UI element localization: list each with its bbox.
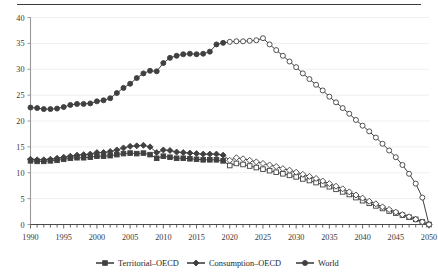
data-point-2026: [267, 42, 272, 47]
data-point-1998: [81, 101, 86, 106]
data-point-2006: [134, 143, 140, 149]
y-tick-label-30: 30: [16, 65, 24, 74]
data-point-2041: [367, 129, 372, 134]
data-point-2021: [234, 161, 239, 166]
data-point-2007: [140, 142, 146, 148]
data-point-2024: [254, 165, 259, 170]
legend-marker-diamond: [193, 260, 199, 266]
data-point-2011: [168, 155, 173, 160]
data-point-2014: [187, 51, 192, 56]
data-point-2037: [340, 106, 345, 111]
x-tick-label-2045: 2045: [388, 233, 404, 242]
data-point-2045: [393, 155, 398, 160]
data-point-2016: [201, 51, 206, 56]
data-point-2029: [287, 167, 293, 173]
data-point-2013: [181, 156, 186, 161]
data-point-2016: [201, 158, 206, 163]
data-point-1995: [61, 105, 66, 110]
chart-legend: Territorial–OECDConsumption–OECDWorld: [0, 252, 438, 276]
data-point-1990: [28, 105, 33, 110]
data-point-2004: [120, 145, 126, 151]
series-consumption-oecd: [28, 142, 433, 227]
gridlines-group: [31, 18, 430, 225]
data-point-2023: [247, 164, 252, 169]
legend-marker-square: [103, 261, 108, 266]
data-point-2013: [181, 52, 186, 57]
legend-item-world[interactable]: World: [296, 259, 340, 268]
data-point-2039: [353, 117, 358, 122]
data-point-2027: [274, 170, 279, 175]
data-point-2038: [347, 111, 352, 116]
data-point-2027: [273, 164, 279, 170]
data-point-2013: [180, 150, 186, 156]
data-point-2036: [334, 100, 339, 105]
x-tick-label-2020: 2020: [222, 233, 238, 242]
data-point-2006: [134, 76, 139, 81]
data-point-2007: [141, 71, 146, 76]
legend-marker-circle: [303, 261, 308, 266]
data-point-1996: [68, 102, 73, 107]
data-point-2012: [174, 149, 180, 155]
legend-label: World: [318, 259, 340, 268]
plot-area: 0510152025303540 19901995200020052010201…: [0, 12, 438, 244]
data-point-2023: [247, 38, 252, 43]
data-point-2030: [294, 65, 299, 70]
legend-items-group: Territorial–OECDConsumption–OECDWorld: [96, 259, 340, 268]
data-point-2017: [207, 151, 213, 157]
data-point-2026: [267, 162, 273, 168]
legend-item-territorial-oecd[interactable]: Territorial–OECD: [96, 259, 179, 268]
x-tick-label-2000: 2000: [89, 233, 105, 242]
data-point-2048: [413, 181, 418, 186]
y-tick-labels-group: 0510152025303540: [16, 14, 24, 230]
data-point-2015: [194, 157, 199, 162]
data-point-2005: [128, 81, 133, 86]
data-point-2040: [360, 123, 365, 128]
data-point-2004: [121, 85, 126, 90]
data-point-2021: [233, 155, 239, 161]
legend-label: Consumption–OECD: [209, 259, 281, 268]
data-point-2012: [174, 156, 179, 161]
data-point-2018: [214, 158, 219, 163]
data-point-2024: [253, 159, 259, 165]
legend-item-consumption-oecd[interactable]: Consumption–OECD: [187, 259, 281, 268]
data-point-2010: [161, 61, 166, 66]
data-point-2019: [221, 159, 226, 164]
data-point-2046: [400, 162, 405, 167]
legend-svg: Territorial–OECDConsumption–OECDWorld: [0, 252, 438, 276]
y-tick-label-25: 25: [16, 91, 24, 100]
data-point-2050: [427, 222, 432, 227]
data-point-2025: [260, 36, 265, 41]
x-tick-label-2040: 2040: [354, 233, 370, 242]
data-point-2044: [387, 148, 392, 153]
data-point-2018: [213, 151, 219, 157]
x-tick-label-2050: 2050: [421, 233, 437, 242]
data-point-2010: [160, 147, 166, 153]
x-tick-label-2030: 2030: [288, 233, 304, 242]
data-point-2033: [314, 82, 319, 87]
data-point-2012: [174, 53, 179, 58]
data-point-2009: [154, 156, 159, 161]
data-point-2005: [128, 151, 133, 156]
data-point-2019: [221, 40, 226, 45]
data-point-2002: [108, 96, 113, 101]
data-point-2025: [260, 160, 266, 166]
y-tick-label-15: 15: [16, 143, 24, 152]
data-point-1991: [35, 106, 40, 111]
data-point-2006: [134, 151, 139, 156]
data-point-2025: [261, 167, 266, 172]
data-point-2042: [373, 135, 378, 140]
x-tick-labels-group: 1990199520002005201020152020202520302035…: [22, 233, 437, 242]
data-point-2010: [161, 154, 166, 159]
data-point-2015: [194, 52, 199, 57]
data-point-2028: [280, 166, 286, 172]
y-tick-label-10: 10: [16, 169, 24, 178]
data-point-2043: [380, 141, 385, 146]
data-point-2047: [407, 171, 412, 176]
data-point-2016: [200, 151, 206, 157]
data-point-1997: [74, 101, 79, 106]
data-point-2014: [188, 156, 193, 161]
data-point-2011: [167, 147, 173, 153]
data-point-2031: [300, 71, 305, 76]
x-tick-label-2025: 2025: [255, 233, 271, 242]
data-point-2014: [187, 150, 193, 156]
